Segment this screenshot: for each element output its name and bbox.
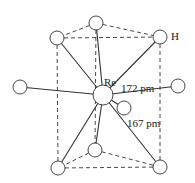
rehydride-structure-diagram xyxy=(0,0,195,183)
h-label: H xyxy=(171,31,179,42)
h-atom-left xyxy=(13,80,27,94)
h-atom-bottom-right xyxy=(153,160,167,174)
re-label: Re xyxy=(104,77,116,88)
h-atom-bottom-left xyxy=(51,161,65,175)
h-atom-top-right xyxy=(153,30,167,44)
h-atom-bottom-center xyxy=(88,143,102,157)
h-atom-front xyxy=(117,101,131,115)
bond-length-167-label: 167 pm xyxy=(127,118,160,129)
h-atom-top-left xyxy=(50,31,64,45)
re-atom xyxy=(93,85,113,105)
bond-length-172-label: 172 pm xyxy=(121,83,154,94)
h-atom-right xyxy=(171,79,185,93)
h-atom-top-center xyxy=(89,16,103,30)
